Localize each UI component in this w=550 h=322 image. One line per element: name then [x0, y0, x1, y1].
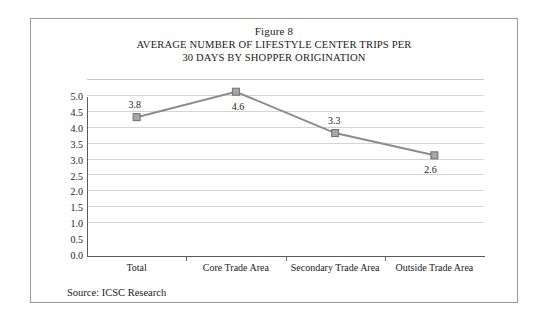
figure-number: Figure 8 [31, 25, 517, 38]
series-line [87, 79, 484, 238]
y-axis-tick-labels: 5.04.54.03.53.02.52.01.51.00.50.0 [31, 97, 83, 257]
y-axis-tick-label: 4.0 [37, 124, 83, 134]
figure-frame: Figure 8 AVERAGE NUMBER OF LIFESTYLE CEN… [30, 18, 518, 303]
y-axis-tick-label: 3.0 [37, 156, 83, 166]
y-axis-tick-label: 2.5 [37, 172, 83, 182]
y-axis-tick-label: 1.5 [37, 203, 83, 213]
data-point-label: 4.6 [232, 102, 245, 112]
series-polyline [137, 92, 435, 156]
chart-title-line-1: AVERAGE NUMBER OF LIFESTYLE CENTER TRIPS… [31, 38, 517, 51]
y-axis-tick-label: 0.5 [37, 235, 83, 245]
y-axis-tick-label: 0.0 [37, 251, 83, 261]
y-axis-tick-label: 1.0 [37, 219, 83, 229]
data-point-label: 3.8 [128, 100, 141, 110]
x-axis-category-label: Core Trade Area [186, 262, 285, 274]
data-point-label: 2.6 [424, 165, 437, 175]
y-axis-tick-label: 2.0 [37, 187, 83, 197]
x-axis-category-label: Secondary Trade Area [286, 262, 385, 274]
data-point-marker [232, 88, 239, 95]
x-axis-category-label: Outside Trade Area [385, 262, 484, 274]
y-axis-line [87, 97, 88, 257]
data-point-marker [332, 130, 339, 137]
data-point-marker [133, 114, 140, 121]
chart-title-block: Figure 8 AVERAGE NUMBER OF LIFESTYLE CEN… [31, 25, 517, 64]
y-axis-tick-label: 5.0 [37, 92, 83, 102]
x-axis-tick [286, 257, 287, 261]
x-axis-tick [385, 257, 386, 261]
x-axis-category-label: Total [87, 262, 186, 274]
x-axis-tick [186, 257, 187, 261]
chart-title-line-2: 30 DAYS BY SHOPPER ORIGINATION [31, 51, 517, 64]
plot-area: 3.84.63.32.6 [87, 79, 484, 238]
y-axis-tick-label: 3.5 [37, 140, 83, 150]
y-axis-tick-label: 4.5 [37, 108, 83, 118]
source-note: Source: ICSC Research [67, 287, 166, 298]
data-point-label: 3.3 [328, 116, 341, 126]
data-point-marker [431, 152, 438, 159]
